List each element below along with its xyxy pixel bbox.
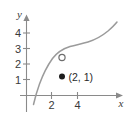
y-tick-label-4: 4	[15, 27, 21, 39]
function-curve	[34, 22, 118, 105]
open-circle-point	[59, 54, 65, 60]
y-axis-arrow-icon	[23, 15, 29, 22]
x-tick-label-2: 2	[48, 99, 54, 111]
solid-point	[59, 74, 65, 80]
graph-figure: 4 3 2 1 2 4 y x (2, 1)	[0, 0, 130, 119]
y-tick-label-1: 1	[15, 74, 21, 86]
coordinate-plane: 4 3 2 1 2 4 y x (2, 1)	[0, 0, 130, 119]
point-coordinate-label: (2, 1)	[69, 71, 94, 83]
y-tick-label-3: 3	[15, 43, 21, 55]
y-tick-label-2: 2	[15, 58, 21, 70]
y-axis-label: y	[16, 8, 22, 20]
x-tick-label-4: 4	[74, 99, 80, 111]
x-axis-label: x	[118, 97, 124, 109]
